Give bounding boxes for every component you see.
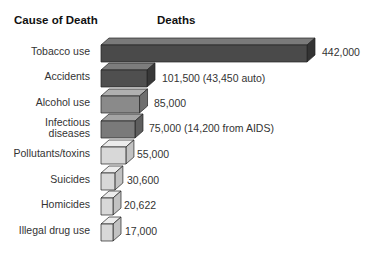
bar [101,114,143,138]
value-label: 55,000 [137,148,169,160]
value-label: 442,000 [322,46,360,58]
bar [101,217,121,241]
category-label: Pollutants/toxins [14,148,90,159]
category-label: Infectious diseases [30,117,90,139]
bar [101,89,148,113]
bar [101,63,155,87]
category-label: Homicides [41,199,90,210]
value-label: 30,600 [127,174,159,186]
bar [101,140,134,164]
category-label: Accidents [44,71,90,82]
category-label: Alcohol use [36,97,90,108]
category-label: Tobacco use [31,46,90,57]
category-label: Suicides [50,174,90,185]
value-label: 85,000 [154,97,186,109]
category-label: Illegal drug use [19,225,90,236]
bar [101,38,315,62]
bar [101,191,121,215]
bar [101,166,123,190]
value-label: 101,500 (43,450 auto) [162,72,265,84]
value-label: 75,000 (14,200 from AIDS) [149,122,274,134]
value-label: 17,000 [125,225,157,237]
value-label: 20,622 [124,199,156,211]
